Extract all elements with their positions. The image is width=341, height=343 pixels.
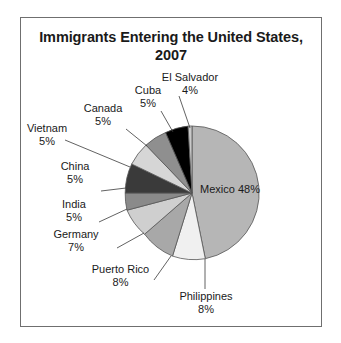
pie-label-germany-pct: 7% (42, 241, 110, 254)
pie-label-china-pct: 5% (50, 173, 100, 186)
pie-label-china-name: China (61, 160, 90, 172)
pie-label-india-pct: 5% (50, 211, 98, 224)
pie-label-cuba: Cuba 5% (125, 84, 171, 109)
pie-label-cuba-name: Cuba (135, 84, 161, 96)
pie-label-philippines-name: Philippines (179, 290, 232, 302)
pie-label-vietnam-name: Vietnam (27, 122, 67, 134)
leader-line-cuba (161, 111, 173, 132)
pie-label-philippines-pct: 8% (171, 303, 241, 316)
pie-label-cuba-pct: 5% (125, 97, 171, 110)
pie-label-india-name: India (62, 198, 86, 210)
pie-label-puerto-rico-name: Puerto Rico (92, 263, 149, 275)
pie-label-mexico: Mexico 48% (200, 183, 260, 196)
leader-line-germany (117, 233, 144, 248)
pie-label-mexico-pct: 48% (238, 183, 260, 195)
pie-label-canada-name: Canada (84, 102, 123, 114)
pie-label-philippines: Philippines 8% (171, 290, 241, 315)
leader-line-el-salvador (179, 96, 190, 128)
pie-label-vietnam-pct: 5% (18, 135, 76, 148)
pie-label-vietnam: Vietnam 5% (18, 122, 76, 147)
pie-label-germany: Germany 7% (42, 228, 110, 253)
chart-frame: Immigrants Entering the United States, 2… (20, 17, 322, 327)
pie-label-germany-name: Germany (53, 228, 98, 240)
pie-chart-plot-area: Mexico 48% El Salvador 4% Cuba 5% Canada… (21, 18, 323, 328)
pie-label-canada-pct: 5% (75, 115, 131, 128)
pie-label-el-salvador-name: El Salvador (162, 71, 218, 83)
pie-label-puerto-rico: Puerto Rico 8% (82, 263, 159, 288)
pie-label-puerto-rico-pct: 8% (82, 276, 159, 289)
pie-label-canada: Canada 5% (75, 102, 131, 127)
leader-line-india (99, 209, 127, 222)
pie-label-india: India 5% (50, 198, 98, 223)
leader-line-canada (126, 129, 147, 146)
pie-label-china: China 5% (50, 160, 100, 185)
pie-label-mexico-name: Mexico (200, 183, 235, 195)
leader-line-china (101, 188, 126, 191)
